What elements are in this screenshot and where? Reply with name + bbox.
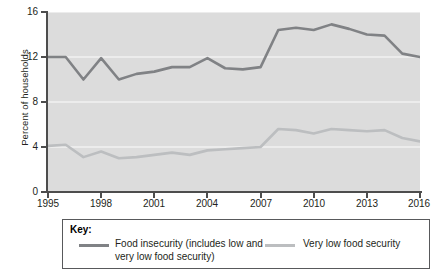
y-tick-label-0: 0 — [12, 187, 38, 197]
gridlines — [48, 12, 420, 147]
legend-title: Key: — [70, 224, 92, 235]
series-layer — [48, 24, 420, 158]
plot-area — [48, 12, 420, 192]
chart-lines — [48, 12, 420, 192]
y-tick-label-16: 16 — [12, 7, 38, 17]
y-tick-12: 12 — [0, 52, 38, 62]
series-line-1 — [48, 129, 420, 158]
y-tick-16: 16 — [0, 7, 38, 17]
x-tick-label-2007: 2007 — [241, 198, 281, 209]
x-tick-label-1995: 1995 — [28, 198, 68, 209]
y-tick-label-12: 12 — [12, 52, 38, 62]
x-tick-label-2010: 2010 — [294, 198, 334, 209]
series-line-0 — [48, 24, 420, 79]
legend-swatch-very-low-food-security — [265, 244, 295, 247]
y-tick-0: 0 — [0, 187, 38, 197]
x-tick-label-2001: 2001 — [134, 198, 174, 209]
x-tick-label-2004: 2004 — [187, 198, 227, 209]
y-tick-label-4: 4 — [12, 142, 38, 152]
legend-box: Key: Food insecurity (includes low and v… — [62, 219, 430, 269]
y-tick-4: 4 — [0, 142, 38, 152]
y-tick-8: 8 — [0, 97, 38, 107]
y-axis-line — [46, 11, 48, 193]
x-tick-label-2016: 2016 — [399, 198, 439, 209]
legend-label-food-insecurity: Food insecurity (includes low and very l… — [115, 238, 275, 263]
legend-swatch-food-insecurity — [79, 244, 109, 247]
x-tick-label-2013: 2013 — [347, 198, 387, 209]
food-security-line-chart: Percent of households 16 12 8 4 0 1995 1… — [0, 0, 440, 278]
x-tick-label-1998: 1998 — [81, 198, 121, 209]
legend-label-very-low-food-security: Very low food security — [303, 238, 438, 251]
y-tick-label-8: 8 — [12, 97, 38, 107]
